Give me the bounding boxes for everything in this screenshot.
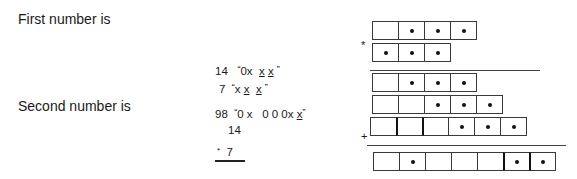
calc-line-5: * 7 [217, 147, 233, 159]
grid-cell [529, 152, 556, 171]
first-number-label: First number is [18, 11, 111, 27]
grid-row-multiplicand [372, 21, 477, 40]
calc-number: 14 [215, 65, 228, 77]
multiply-sign: * [361, 39, 365, 51]
calc-term-underlined: x [256, 83, 262, 95]
grid-cell [372, 95, 399, 114]
calc-number: 7 [219, 83, 225, 95]
grid-cell [424, 95, 451, 114]
grid-cell [451, 152, 478, 171]
dot-icon [486, 125, 490, 129]
grid-cell [398, 43, 425, 62]
grid-cell [450, 95, 477, 114]
grid-cell [372, 73, 399, 92]
dot-icon [410, 81, 414, 85]
multiply-sign: * [217, 146, 220, 155]
grid-cell [399, 152, 426, 171]
calc-term: 0 x [237, 108, 252, 120]
calc-underline [215, 160, 245, 162]
second-number-label: Second number is [18, 98, 131, 114]
dot-icon [515, 160, 519, 164]
grid-row-multiplier [372, 43, 451, 62]
dot-icon [436, 103, 440, 107]
dot-icon [462, 81, 466, 85]
dot-icon [436, 29, 440, 33]
calc-number: 7 [227, 146, 233, 158]
grid-cell [398, 73, 425, 92]
multiplication-divider-line [370, 70, 540, 71]
grid-cell [398, 21, 425, 40]
grid-cell [398, 95, 425, 114]
grid-cell [450, 73, 477, 92]
grid-cell [372, 21, 399, 40]
calc-term-underlined: x [268, 65, 274, 77]
grid-row-partial-product-1 [372, 73, 477, 92]
grid-cell [396, 117, 423, 136]
calc-term-underlined: x [259, 65, 265, 77]
dot-icon [541, 160, 545, 164]
sum-divider-line [367, 145, 566, 146]
grid-cell [370, 117, 397, 136]
calc-term-underlined: x [244, 83, 250, 95]
dot-icon [460, 125, 464, 129]
grid-cell [448, 117, 475, 136]
dot-icon [384, 51, 388, 55]
calc-line-1: 14 “0x x x ” [215, 65, 280, 78]
grid-cell [474, 117, 501, 136]
grid-cell [425, 152, 452, 171]
dot-icon [411, 160, 415, 164]
calc-line-4: 14 [228, 125, 241, 137]
grid-cell [372, 43, 399, 62]
quote-close: ” [302, 107, 305, 117]
dot-icon [436, 51, 440, 55]
grid-row-partial-product-2 [372, 95, 503, 114]
grid-cell [424, 21, 451, 40]
dot-icon [462, 103, 466, 107]
dot-icon [410, 29, 414, 33]
calc-line-3: 98 “0 x 0 0 0x x” [215, 108, 305, 121]
calc-line-2: 7 “x x x ” [219, 83, 268, 96]
quote-close: ” [277, 64, 280, 74]
grid-cell [424, 73, 451, 92]
dot-icon [436, 81, 440, 85]
dot-icon [512, 125, 516, 129]
grid-cell [500, 117, 527, 136]
dot-icon [410, 51, 414, 55]
dot-icon [488, 103, 492, 107]
grid-cell [422, 117, 449, 136]
calc-number: 98 [215, 108, 228, 120]
quote-close: ” [265, 82, 268, 92]
grid-cell [373, 152, 400, 171]
grid-cell [424, 43, 451, 62]
grid-row-result [373, 152, 556, 171]
grid-row-partial-product-3 [370, 117, 527, 136]
calc-term: x [235, 83, 241, 95]
grid-cell [503, 152, 530, 171]
dot-icon [462, 29, 466, 33]
grid-cell [450, 21, 477, 40]
grid-cell [476, 95, 503, 114]
calc-term: 0 0 0x [262, 108, 293, 120]
plus-sign: + [361, 130, 367, 142]
grid-cell [477, 152, 504, 171]
calc-term: 0x [240, 65, 252, 77]
